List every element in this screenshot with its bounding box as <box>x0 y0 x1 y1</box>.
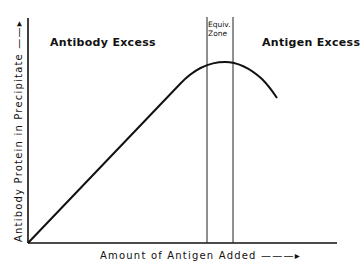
antibody-excess-label: Antibody Excess <box>50 36 156 49</box>
precipitin-curve-line <box>28 62 277 243</box>
y-axis-label: Antibody Protein in Precipitate ——▸ <box>13 20 24 242</box>
x-axis-label: Amount of Antigen Added ———▸ <box>100 250 301 261</box>
antigen-excess-label: Antigen Excess <box>262 36 360 49</box>
equivalence-zone-label: Equiv. Zone <box>208 20 234 38</box>
